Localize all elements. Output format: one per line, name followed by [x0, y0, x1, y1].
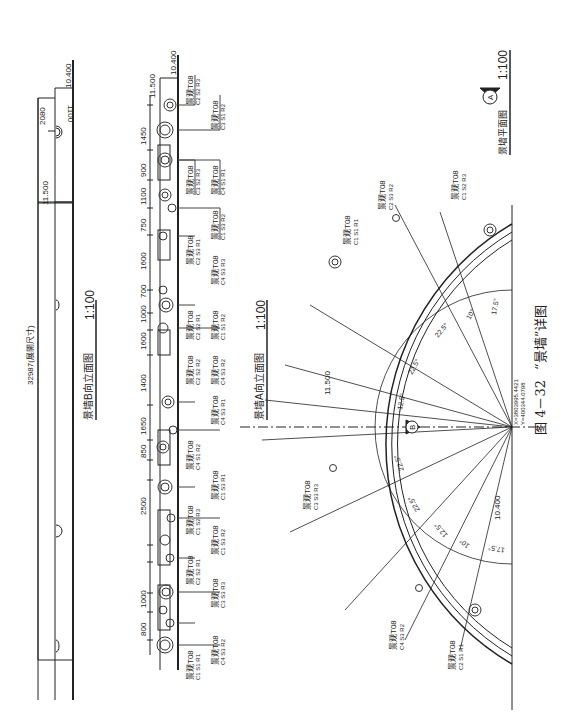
light-code: C3 S2 R3	[195, 168, 201, 195]
light-code: C1 S3 R2	[220, 213, 226, 240]
light-code: C1 S2 R3	[461, 173, 467, 200]
light-code: C1 S2 R3	[195, 508, 201, 535]
dim: 2080	[38, 107, 47, 125]
elevation-b-wall	[147, 55, 220, 670]
light-label: 景观T08	[211, 525, 220, 555]
dim: 1450	[139, 127, 148, 145]
center-x: X=3803995.4421	[513, 378, 519, 425]
light-label: 景观T08	[211, 100, 220, 130]
dim: 1100	[139, 187, 148, 205]
dim: 1100	[66, 105, 75, 123]
plan-scale: 1:100	[496, 50, 510, 80]
light-code: C4 S1 R2	[195, 443, 201, 470]
plan-level: 10.400	[493, 495, 502, 520]
dim: 1650	[139, 417, 148, 435]
light-label: 景观T08	[211, 255, 220, 285]
light-code: C1 S3 R2	[220, 528, 226, 555]
light-code: C4 S3 R3	[220, 258, 226, 285]
light-label: 景观T08	[389, 620, 398, 650]
light-label: 景观T08	[448, 640, 457, 670]
dim: 1400	[139, 374, 148, 392]
marker-b: B	[408, 425, 417, 430]
light-label: 景观T08	[186, 235, 195, 265]
dim: 750	[139, 218, 148, 232]
light-code: C2 S2 R2	[195, 358, 201, 385]
level-mid-b: 11.500	[148, 74, 157, 98]
light-code: C2 S2 R1	[195, 313, 201, 340]
dim: 700	[139, 284, 148, 298]
elevation-b-scale: 1:100	[83, 290, 97, 320]
light-label: 景观T08	[343, 215, 352, 245]
level-mid-a: 11.500	[41, 181, 50, 205]
light-code: C4 S3 R2	[220, 638, 226, 665]
plan-drawing	[240, 88, 545, 710]
light-label: 景观T08	[211, 310, 220, 340]
light-code: C1 S3 R1	[220, 473, 226, 500]
light-code: C1 S1 R1	[353, 218, 359, 245]
elevation-b-title: 景墙B向立面图	[82, 353, 94, 420]
light-code: C2 S2 R3	[195, 78, 201, 105]
light-code: C2 S3 R2	[388, 183, 394, 210]
light-label: 景观T08	[186, 505, 195, 535]
light-label: 景观T08	[211, 355, 220, 385]
light-code: C4 S3 R2	[399, 623, 405, 650]
dim: 1600	[139, 332, 148, 350]
light-label: 景观T08	[186, 355, 195, 385]
light-label: 景观T08	[211, 395, 220, 425]
figure-caption-title: “景墙”详图	[533, 305, 548, 370]
light-code: C1 S1 R2	[220, 313, 226, 340]
light-label: 景观T08	[186, 165, 195, 195]
dim: 2500	[139, 497, 148, 515]
light-label: 景观T08	[303, 480, 312, 510]
elevation-a-title: 景墙A向立面图	[253, 353, 265, 420]
light-label: 景观T08	[186, 310, 195, 340]
level-top-a: 10.400	[64, 63, 73, 88]
angle-label: 22.5°	[406, 495, 420, 513]
angle-label: 22.5°	[433, 321, 449, 338]
dim: 850	[139, 444, 148, 458]
light-code: C2 S2 R1	[195, 558, 201, 585]
light-code: C2 S3 R1	[195, 238, 201, 265]
light-label: 景观T08	[211, 210, 220, 240]
light-code: C4 S1 R1	[220, 168, 226, 195]
light-label: 景观T08	[186, 440, 195, 470]
angle-label: 12.5°	[396, 393, 406, 411]
light-label: 景观T08	[211, 578, 220, 608]
light-code: C2 S1 R1	[458, 643, 464, 670]
light-label: 景观T08	[378, 180, 387, 210]
marker-a: A	[486, 94, 495, 100]
center-y: Y=400344.0798	[520, 382, 526, 425]
light-label: 景观T08	[186, 650, 195, 680]
light-label: 景观T08	[211, 635, 220, 665]
dim: 1600	[139, 252, 148, 270]
light-label: 景观T08	[186, 555, 195, 585]
angle-label: 22.5°	[407, 358, 421, 376]
light-code: C4 S3 R1	[220, 398, 226, 425]
elevation-a-scale: 1:100	[254, 300, 268, 330]
level-top-b: 10.400	[169, 50, 178, 75]
dim: 1000	[139, 305, 148, 323]
drawing-canvas: 32987(展開尺寸) 景墙B向立面图 1:100 景墙A向立面图 1:100 …	[0, 0, 588, 717]
dim: 900	[139, 163, 148, 177]
plan-title: 景墙平面图	[497, 110, 508, 155]
angle-label: 17.5°	[488, 544, 506, 554]
light-code: C1 S1 R1	[195, 653, 201, 680]
light-code: C4 S3 R2	[220, 358, 226, 385]
plan-level-top: 11.500	[323, 371, 332, 395]
light-code: C3 S3 R3	[313, 483, 319, 510]
light-code: C3 S1 R2	[220, 103, 226, 130]
angle-label: 12.5°	[433, 522, 449, 539]
light-label: 景观T08	[186, 75, 195, 105]
angle-label: 10°	[465, 308, 476, 321]
light-label: 景观T08	[211, 470, 220, 500]
angle-label: 17.5°	[490, 298, 500, 316]
light-code: C3 S3 R3	[220, 581, 226, 608]
figure-caption-number: 图 4－32	[533, 380, 548, 435]
dim: 1000	[139, 590, 148, 608]
overall-dimension: 32987(展開尺寸)	[25, 325, 35, 385]
light-label: 景观T08	[451, 170, 460, 200]
angle-label: 10°	[458, 537, 471, 549]
angle-label: 22.5°	[393, 454, 405, 472]
elevation-a-wall	[38, 60, 73, 700]
dim: 800	[139, 622, 148, 636]
